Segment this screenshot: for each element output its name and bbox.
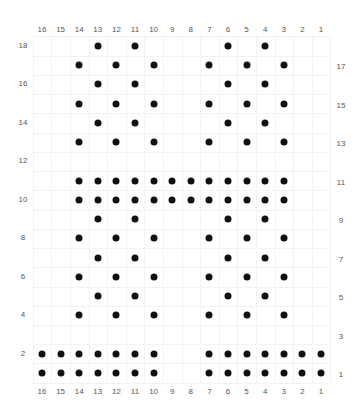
row-label-left: 10 <box>19 196 28 204</box>
stitch-dot <box>113 196 120 203</box>
column-label-top: 9 <box>170 26 174 34</box>
column-label-top: 2 <box>300 26 304 34</box>
stitch-dot <box>280 273 287 280</box>
grid-line <box>33 75 331 76</box>
stitch-dot <box>132 119 139 126</box>
column-label-top: 8 <box>189 26 193 34</box>
stitch-dot <box>150 62 157 69</box>
column-label-bottom: 8 <box>189 388 193 396</box>
grid-line <box>33 210 331 211</box>
grid-line <box>33 363 331 364</box>
column-label-bottom: 12 <box>112 388 121 396</box>
stitch-dot <box>113 62 120 69</box>
column-label-top: 14 <box>75 26 84 34</box>
stitch-dot <box>262 350 269 357</box>
stitch-dot <box>57 350 64 357</box>
stitch-dot <box>225 293 232 300</box>
stitch-dot <box>113 312 120 319</box>
stitch-dot <box>132 196 139 203</box>
column-label-bottom: 10 <box>149 388 158 396</box>
column-label-top: 15 <box>56 26 65 34</box>
grid-line <box>33 56 331 57</box>
stitch-dot <box>225 196 232 203</box>
stitch-dot <box>132 43 139 50</box>
stitch-dot <box>76 177 83 184</box>
row-label-right: 17 <box>337 63 346 71</box>
grid-line <box>33 325 331 326</box>
grid-line <box>33 152 331 153</box>
stitch-dot <box>39 370 46 377</box>
stitch-dot <box>243 100 250 107</box>
stitch-dot <box>94 350 101 357</box>
column-label-bottom: 15 <box>56 388 65 396</box>
stitch-dot <box>113 235 120 242</box>
stitch-dot <box>225 370 232 377</box>
row-label-right: 13 <box>337 140 346 148</box>
stitch-dot <box>225 119 232 126</box>
stitch-dot <box>94 254 101 261</box>
grid-line <box>33 306 331 307</box>
stitch-dot <box>113 273 120 280</box>
stitch-dot <box>94 293 101 300</box>
row-label-left: 6 <box>21 273 25 281</box>
stitch-dot <box>150 273 157 280</box>
stitch-dot <box>169 177 176 184</box>
column-label-bottom: 2 <box>300 388 304 396</box>
stitch-dot <box>243 350 250 357</box>
stitch-dot <box>94 81 101 88</box>
column-label-top: 12 <box>112 26 121 34</box>
stitch-dot <box>76 350 83 357</box>
stitch-dot <box>206 235 213 242</box>
stitch-dot <box>280 235 287 242</box>
stitch-dot <box>262 81 269 88</box>
stitch-dot <box>113 100 120 107</box>
column-label-bottom: 4 <box>263 388 267 396</box>
stitch-dot <box>94 177 101 184</box>
row-label-right: 11 <box>337 179 345 187</box>
stitch-dot <box>206 370 213 377</box>
column-label-top: 1 <box>319 26 323 34</box>
grid-line <box>33 94 331 95</box>
stitch-dot <box>132 293 139 300</box>
column-label-top: 6 <box>226 26 230 34</box>
stitch-dot <box>243 196 250 203</box>
stitch-dot <box>94 196 101 203</box>
stitch-dot <box>262 216 269 223</box>
grid-line <box>33 287 331 288</box>
row-label-left: 2 <box>21 350 25 358</box>
stitch-dot <box>76 312 83 319</box>
stitch-dot <box>57 370 64 377</box>
row-label-right: 5 <box>339 294 343 302</box>
grid-line <box>33 171 331 172</box>
stitch-dot <box>299 350 306 357</box>
stitch-dot <box>206 139 213 146</box>
stitch-dot <box>262 370 269 377</box>
stitch-dot <box>132 350 139 357</box>
row-label-left: 18 <box>19 42 28 50</box>
stitch-dot <box>187 177 194 184</box>
row-label-right: 1 <box>339 371 343 379</box>
grid-line <box>33 133 331 134</box>
grid-line <box>33 113 331 114</box>
column-label-bottom: 9 <box>170 388 174 396</box>
stitch-dot <box>150 370 157 377</box>
stitch-dot <box>280 350 287 357</box>
stitch-dot <box>150 177 157 184</box>
stitch-dot <box>150 312 157 319</box>
stitch-dot <box>262 196 269 203</box>
grid-line <box>33 383 331 384</box>
stitch-dot <box>318 350 325 357</box>
stitch-dot <box>113 370 120 377</box>
grid-line <box>330 36 331 382</box>
row-label-left: 12 <box>19 157 28 165</box>
stitch-dot <box>76 235 83 242</box>
stitch-dot <box>280 139 287 146</box>
stitch-dot <box>262 43 269 50</box>
stitch-dot <box>206 177 213 184</box>
column-label-top: 16 <box>38 26 47 34</box>
stitch-dot <box>280 370 287 377</box>
row-label-left: 8 <box>21 234 25 242</box>
stitch-dot <box>280 177 287 184</box>
grid-line <box>33 248 331 249</box>
stitch-dot <box>94 370 101 377</box>
